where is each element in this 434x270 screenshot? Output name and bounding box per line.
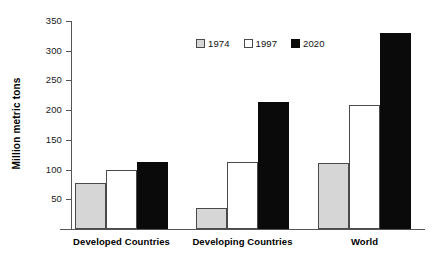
y-axis-label: Million metric tons <box>11 44 22 204</box>
bar-world-1997 <box>349 105 380 229</box>
bar-chart: Million metric tons 50100150200250300350… <box>0 0 434 270</box>
y-tick-label: 200 <box>28 105 62 114</box>
bar-developed-countries-2020 <box>137 162 168 229</box>
bar-world-1974 <box>318 163 349 229</box>
bar-developing-countries-1974 <box>196 208 227 229</box>
plot-area <box>72 21 421 229</box>
bar-developing-countries-2020 <box>258 102 289 229</box>
y-tick-label: 350 <box>28 16 62 25</box>
y-tick-label: 150 <box>28 135 62 144</box>
y-tick-label: 300 <box>28 46 62 55</box>
y-tick-label: 50 <box>28 194 62 203</box>
y-tick-label: 250 <box>28 75 62 84</box>
bar-developed-countries-1997 <box>106 170 137 229</box>
x-axis-line <box>60 229 425 230</box>
y-tick-label: 100 <box>28 165 62 174</box>
y-axis-label-wrap: Million metric tons <box>0 48 16 208</box>
bar-developing-countries-1997 <box>227 162 258 229</box>
bar-developed-countries-1974 <box>75 183 106 229</box>
category-label-world: World <box>285 236 434 247</box>
bar-world-2020 <box>380 33 411 229</box>
